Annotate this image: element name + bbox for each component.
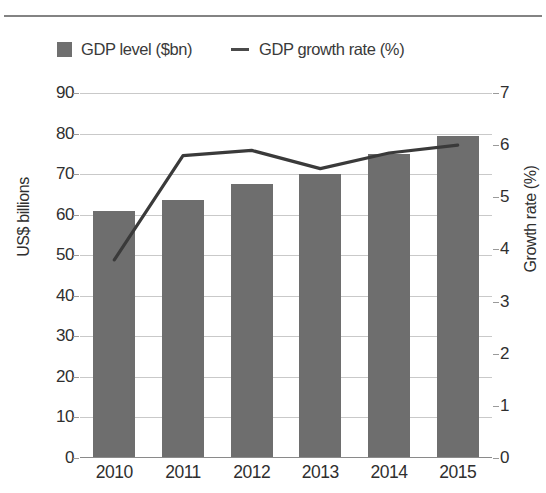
y-axis-right-tick: [493, 145, 499, 146]
y-axis-left-tick: [73, 296, 79, 297]
y-axis-left-tick-label: 30: [44, 326, 74, 346]
x-axis-baseline: [80, 457, 492, 459]
y-axis-left-tick-label: 20: [44, 367, 74, 387]
header-divider: [4, 15, 542, 17]
x-axis-tick-label-2013: 2013: [286, 462, 354, 483]
legend-item-gdp-growth-rate: GDP growth rate (%): [231, 40, 404, 59]
y-axis-right-tick: [493, 406, 499, 407]
y-axis-left-tick: [73, 215, 79, 216]
y-axis-right-tick-label: 4: [500, 239, 524, 259]
y-axis-right-tick: [493, 354, 499, 355]
y-axis-left-tick: [73, 417, 79, 418]
legend-item-gdp-level-label: GDP level ($bn): [81, 40, 192, 59]
y-axis-left-tick: [73, 458, 79, 459]
y-axis-left-tick: [73, 134, 79, 135]
y-axis-left-tick-label: 60: [44, 205, 74, 225]
y-axis-right-tick: [493, 197, 499, 198]
y-axis-right-tick: [493, 93, 499, 94]
filled-square-icon: [57, 42, 72, 57]
x-axis-tick-label-2011: 2011: [149, 462, 217, 483]
y-axis-left-tick-label: 70: [44, 164, 74, 184]
y-axis-right-tick-label: 6: [500, 135, 524, 155]
growth-rate-polyline: [114, 145, 457, 260]
legend-item-gdp-level: GDP level ($bn): [57, 40, 192, 59]
y-axis-right-tick-label: 5: [500, 187, 524, 207]
y-axis-left-tick: [73, 174, 79, 175]
y-axis-left-tick: [73, 255, 79, 256]
y-axis-left-tick-label: 50: [44, 245, 74, 265]
chart-legend: GDP level ($bn) GDP growth rate (%): [0, 40, 546, 70]
y-axis-right-tick: [493, 302, 499, 303]
line-series: [80, 93, 492, 458]
y-axis-right-tick-label: 7: [500, 83, 524, 103]
y-axis-left-tick: [73, 336, 79, 337]
y-axis-left-tick-label: 40: [44, 286, 74, 306]
y-axis-left-tick-label: 90: [44, 83, 74, 103]
y-axis-right-tick-label: 0: [500, 448, 524, 468]
y-axis-left-tick: [73, 377, 79, 378]
y-axis-left-tick-label: 10: [44, 407, 74, 427]
chart-plot-area: [80, 93, 492, 458]
y-axis-right-tick: [493, 458, 499, 459]
y-axis-left-ticks: 9080706050403020100: [36, 93, 74, 458]
y-axis-right-tick-label: 3: [500, 292, 524, 312]
y-axis-right-tick-label: 2: [500, 344, 524, 364]
y-axis-left-tick: [73, 93, 79, 94]
x-axis-labels: 201020112012201320142015: [80, 462, 492, 490]
y-axis-right-tick: [493, 249, 499, 250]
x-axis-tick-label-2015: 2015: [424, 462, 492, 483]
y-axis-right-ticks: 76543210: [500, 93, 530, 458]
y-axis-left-tick-label: 80: [44, 124, 74, 144]
x-axis-tick-label-2014: 2014: [355, 462, 423, 483]
y-axis-left-tick-label: 0: [44, 448, 74, 468]
y-axis-left-title: US$ billions: [15, 147, 33, 287]
x-axis-tick-label-2012: 2012: [218, 462, 286, 483]
legend-item-gdp-growth-rate-label: GDP growth rate (%): [259, 40, 404, 59]
horizontal-dash-icon: [231, 48, 249, 51]
x-axis-tick-label-2010: 2010: [80, 462, 148, 483]
y-axis-right-tick-label: 1: [500, 396, 524, 416]
